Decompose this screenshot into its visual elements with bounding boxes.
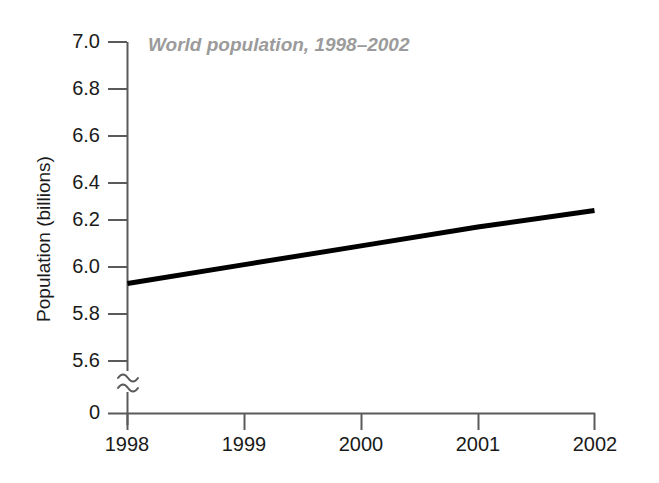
axis-break-icon	[118, 385, 138, 392]
plot-area	[0, 0, 659, 483]
data-series-line	[128, 211, 595, 284]
line-chart: Population (billions) World population, …	[0, 0, 659, 483]
axis-break-icon	[118, 375, 138, 382]
